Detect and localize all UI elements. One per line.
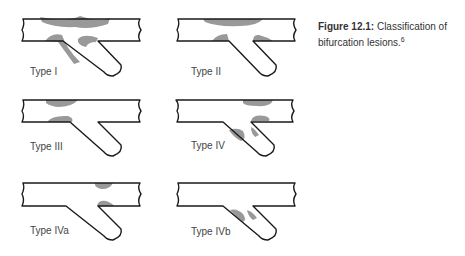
panel-label: Type IV [191,140,225,151]
bifurcation-diagram [155,0,310,85]
panel-label: Type III [30,141,63,152]
panel-type-iva: Type IVa [0,170,155,255]
panel-type-i: Type I [0,0,155,85]
bifurcation-diagram [0,85,155,170]
bifurcation-diagram [155,85,310,170]
panel-type-ivb: Type IVb [155,170,310,255]
panel-label: Type II [191,66,221,77]
panel-label: Type IVa [30,225,69,236]
panel-type-iii: Type III [0,85,155,170]
bifurcation-diagram [0,170,155,256]
figure-label: Figure 12.1: [318,21,374,32]
panel-type-ii: Type II [155,0,310,85]
figure-caption: Figure 12.1: Classification of bifurcati… [318,20,465,49]
reference-number: 6 [401,36,405,43]
bifurcation-diagram [0,0,155,85]
panel-label: Type I [30,66,57,77]
bifurcation-diagram [155,170,310,256]
panel-label: Type IVb [191,226,230,237]
panel-type-iv: Type IV [155,85,310,170]
